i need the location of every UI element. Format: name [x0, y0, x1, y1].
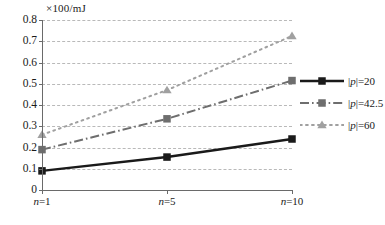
y-tick-label: 0.4	[23, 99, 37, 111]
legend-swatch-icon	[300, 118, 344, 132]
series-marker	[287, 32, 296, 40]
y-tick-mark	[39, 105, 43, 106]
legend-item-0[interactable]: |p|=20	[300, 70, 385, 92]
legend-swatch-icon	[300, 74, 344, 88]
series-plot	[42, 20, 292, 190]
y-tick-mark	[39, 84, 43, 85]
chart-container: ×100/mJ 00.10.20.30.40.50.60.70.8 n=1n=5…	[0, 0, 385, 225]
y-tick-mark	[39, 126, 43, 127]
y-tick-label: 0.5	[23, 78, 37, 90]
legend-item-2[interactable]: |p|=60	[300, 114, 385, 136]
y-tick-label: 0.2	[23, 142, 37, 154]
x-tick-label: n=1	[33, 196, 50, 207]
y-tick-label: 0.3	[23, 121, 37, 133]
x-tick-mark	[292, 190, 293, 194]
legend-item-1[interactable]: |p|=42.5	[300, 92, 385, 114]
plot-area	[42, 20, 292, 190]
y-tick-mark	[39, 148, 43, 149]
y-tick-mark	[39, 20, 43, 21]
y-axis-unit-label: ×100/mJ	[46, 2, 86, 14]
y-tick-label: 0.6	[23, 57, 37, 69]
series-marker	[163, 153, 171, 161]
y-tick-mark	[39, 63, 43, 64]
series-marker	[288, 135, 296, 143]
x-axis-ticks: n=1n=5n=10	[42, 190, 292, 216]
legend-label: |p|=60	[348, 120, 375, 131]
x-tick-label: n=10	[281, 196, 304, 207]
y-tick-label: 0.1	[23, 163, 37, 175]
legend-swatch-icon	[300, 96, 344, 110]
series-marker	[162, 86, 171, 94]
series-marker	[288, 77, 296, 85]
y-tick-mark	[39, 41, 43, 42]
series-marker	[163, 115, 171, 123]
x-tick-mark	[42, 190, 43, 194]
y-tick-mark	[39, 169, 43, 170]
legend-label: |p|=20	[348, 76, 375, 87]
y-tick-label: 0.7	[23, 36, 37, 48]
x-tick-label: n=5	[158, 196, 175, 207]
legend-label: |p|=42.5	[348, 98, 383, 109]
y-tick-label: 0.8	[23, 14, 37, 26]
legend: |p|=20|p|=42.5|p|=60	[300, 70, 385, 136]
x-tick-mark	[167, 190, 168, 194]
y-axis: 00.10.20.30.40.50.60.70.8	[42, 20, 43, 190]
